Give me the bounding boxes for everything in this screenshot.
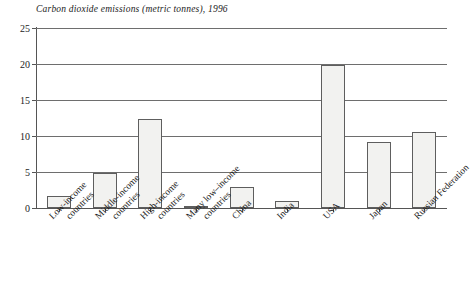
x-axis-label: Middle-incomecountries	[93, 173, 151, 231]
x-axis-label: India	[275, 200, 297, 222]
x-axis-label: Low-incomecountries	[47, 180, 98, 231]
x-axis-label: China	[230, 198, 254, 222]
x-axis-label: Japan	[367, 199, 390, 222]
x-axis-label: Russian Federation	[412, 162, 472, 222]
x-axis-label: USA	[321, 201, 343, 223]
x-axis-label: Many low–incomecountries	[184, 163, 251, 230]
